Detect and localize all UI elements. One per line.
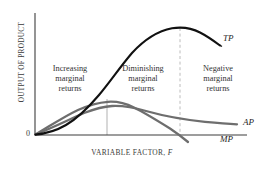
- region-diminishing-line3: returns: [108, 84, 178, 94]
- region-increasing-line3: returns: [36, 84, 104, 94]
- region-negative-line2: marginal: [182, 74, 254, 84]
- x-axis-title: VARIABLE FACTOR, F: [42, 148, 222, 157]
- region-increasing-line1: Increasing: [36, 64, 104, 74]
- x-axis-title-prefix: VARIABLE FACTOR,: [91, 148, 167, 157]
- product-curves-figure: OUTPUT OF PRODUCT VARIABLE FACTOR, F 0 I…: [0, 0, 267, 171]
- region-negative-line3: returns: [182, 84, 254, 94]
- origin-label: 0: [26, 129, 30, 138]
- region-label-increasing-returns: Increasing marginal returns: [36, 64, 104, 93]
- region-diminishing-line1: Diminishing: [108, 64, 178, 74]
- x-axis-title-variable: F: [168, 148, 173, 157]
- curve-label-mp: MP: [220, 134, 233, 144]
- region-diminishing-line2: marginal: [108, 74, 178, 84]
- region-negative-line1: Negative: [182, 64, 254, 74]
- curve-label-tp: TP: [223, 33, 234, 43]
- curve-label-ap: AP: [243, 117, 254, 127]
- marginal-product-curve: [36, 102, 189, 142]
- region-label-negative-returns: Negative marginal returns: [182, 64, 254, 93]
- average-product-curve: [36, 106, 238, 135]
- y-axis-title: OUTPUT OF PRODUCT: [18, 2, 26, 122]
- region-label-diminishing-returns: Diminishing marginal returns: [108, 64, 178, 93]
- region-increasing-line2: marginal: [36, 74, 104, 84]
